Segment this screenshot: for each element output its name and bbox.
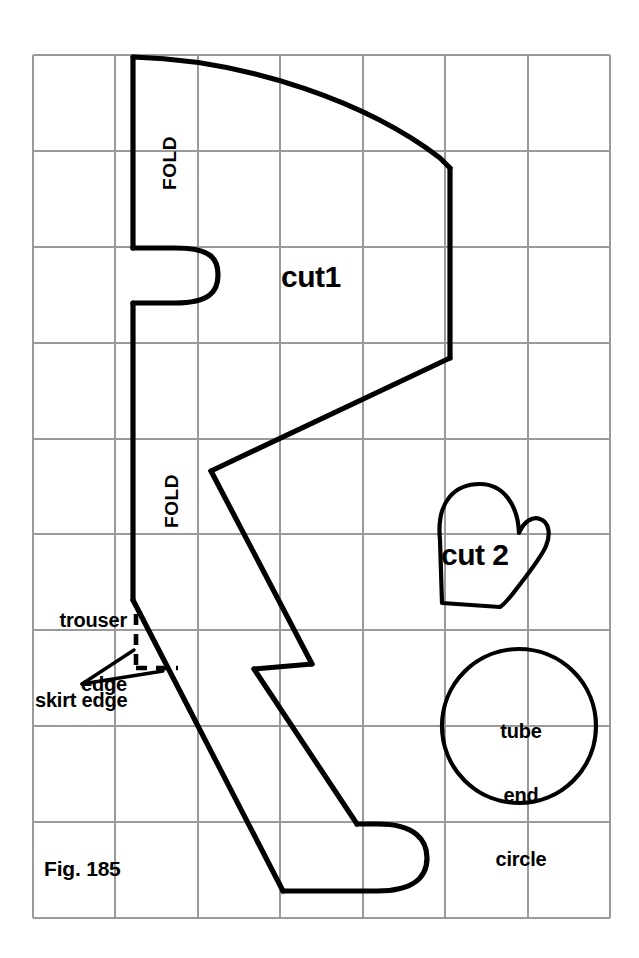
cut2-label: cut 2 xyxy=(441,539,509,571)
figure-caption: Fig. 185 xyxy=(44,858,121,880)
side-seam-upper xyxy=(211,471,312,664)
tube-end-circle-label-line2: end xyxy=(477,785,565,806)
side-seam-step-notch xyxy=(254,664,312,669)
trouser-edge-label-line1: trouser xyxy=(31,610,127,631)
trouser-inseam-edge xyxy=(133,600,283,891)
skirt-edge-label: skirt edge xyxy=(35,690,127,711)
foot-toe-curve xyxy=(283,824,427,891)
side-seam-lower xyxy=(254,669,357,824)
cut1-label: cut1 xyxy=(281,261,341,293)
figure-page: FOLD FOLD cut1 cut 2 tube end circle tro… xyxy=(0,0,639,958)
tube-end-circle-label: tube end circle xyxy=(477,679,565,912)
placket-notch xyxy=(133,248,218,303)
fold-label-upper: FOLD xyxy=(160,136,180,190)
trouser-edge-label: trouser edge xyxy=(31,568,127,738)
tube-end-circle-label-line1: tube xyxy=(477,721,565,742)
tube-end-circle-label-line3: circle xyxy=(477,849,565,870)
underarm-diagonal xyxy=(211,358,450,471)
fold-label-lower: FOLD xyxy=(162,474,182,528)
